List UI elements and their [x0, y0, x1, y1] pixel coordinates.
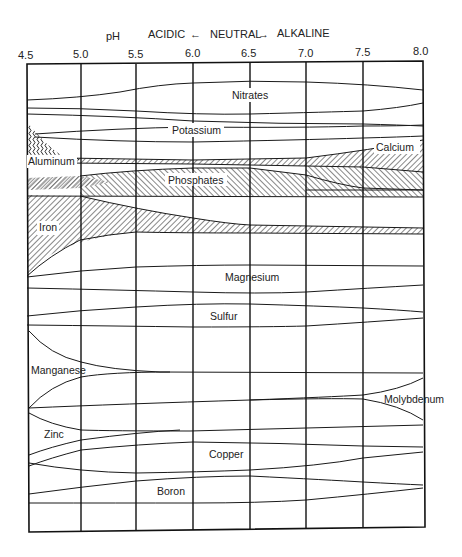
nutrient-ph-chart: pH ACIDIC ← NEUTRAL → ALKALINE 4.5 5.0 5…: [0, 0, 462, 557]
label-magnesium: Magnesium: [225, 271, 280, 283]
tick-label: 5.0: [73, 48, 88, 60]
label-aluminum: Aluminum: [28, 155, 75, 167]
tick-label: 7.5: [355, 46, 370, 58]
grid: [27, 61, 425, 532]
label-phosphates: Phosphates: [168, 174, 223, 186]
label-manganese: Manganese: [31, 364, 86, 376]
label-boron: Boron: [157, 485, 185, 497]
arrow-left-icon: ←: [190, 28, 201, 40]
label-zinc: Zinc: [44, 428, 64, 440]
neutral-label: NEUTRAL: [210, 28, 261, 40]
ph-label: pH: [106, 30, 120, 42]
chart-header: pH ACIDIC ← NEUTRAL → ALKALINE: [106, 27, 330, 42]
label-iron: Iron: [39, 221, 57, 233]
x-axis-ticks: 4.5 5.0 5.5 6.0 6.5 7.0 7.5 8.0: [18, 45, 428, 61]
arrow-right-icon: →: [258, 28, 269, 40]
tick-label: 8.0: [413, 45, 428, 57]
tick-label: 6.0: [185, 47, 200, 59]
label-calcium: Calcium: [376, 141, 414, 153]
label-molybdenum: Molybdenum: [384, 393, 444, 405]
tick-label: 5.5: [128, 48, 143, 60]
label-nitrates: Nitrates: [232, 89, 268, 101]
acidic-label: ACIDIC: [148, 28, 185, 40]
label-potassium: Potassium: [172, 124, 221, 136]
tick-label: 7.0: [298, 47, 313, 59]
alkaline-label: ALKALINE: [277, 27, 330, 39]
label-sulfur: Sulfur: [210, 310, 238, 322]
tick-label: 6.5: [241, 47, 256, 59]
tick-label: 4.5: [18, 49, 33, 61]
label-copper: Copper: [209, 448, 244, 460]
